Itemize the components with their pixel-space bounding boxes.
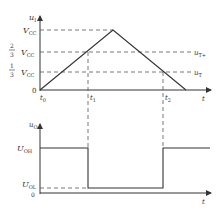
- svg-text:VCC: VCC: [21, 48, 35, 58]
- vcc-label: VCC: [23, 26, 37, 36]
- ut-plus-label: uT+: [194, 49, 206, 58]
- two-thirds-vcc-label: 2 3 VCC: [9, 42, 35, 58]
- svg-text:3: 3: [10, 51, 14, 58]
- svg-text:2: 2: [10, 42, 14, 49]
- upper-plot: uI VCC 2 3 VCC 1 3 VCC uT+ uT 0 t0 t1 t2…: [9, 13, 211, 148]
- svg-text:VCC: VCC: [21, 68, 35, 78]
- ut-minus-label: uT: [194, 69, 203, 78]
- triangle-waveform: [40, 30, 186, 90]
- comparator-waveform-diagram: uI VCC 2 3 VCC 1 3 VCC uT+ uT 0 t0 t1 t2…: [0, 0, 218, 212]
- lower-t-axis-label: t: [202, 198, 205, 206]
- svg-text:1: 1: [10, 62, 14, 69]
- upper-y-axis-label: uI: [29, 13, 36, 23]
- t1-label: t1: [90, 94, 96, 103]
- lower-origin-label: 0: [31, 191, 35, 198]
- t0-label: t0: [40, 94, 46, 103]
- upper-t-axis-label: t: [202, 95, 205, 103]
- uoh-label: UOH: [17, 144, 33, 154]
- upper-origin-label: 0: [32, 87, 36, 95]
- lower-y-axis-label: uO: [29, 121, 38, 130]
- one-third-vcc-label: 1 3 VCC: [9, 62, 35, 78]
- square-waveform: [40, 148, 210, 188]
- svg-text:3: 3: [10, 71, 14, 78]
- lower-plot: uO UOH UOL 0 t: [17, 121, 211, 206]
- t2-label: t2: [165, 94, 171, 103]
- uol-label: UOL: [22, 180, 37, 190]
